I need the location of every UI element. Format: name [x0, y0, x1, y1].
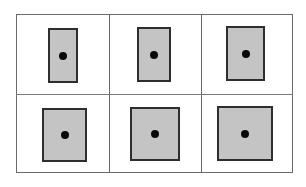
center-dot — [61, 131, 69, 139]
center-dot — [151, 130, 159, 138]
shape-r2-c2 — [130, 107, 180, 161]
center-dot — [59, 52, 67, 60]
shape-r2-c3 — [217, 106, 273, 161]
shape-r2-c1 — [42, 108, 87, 162]
shape-r1-c3 — [226, 26, 265, 81]
shape-r1-c2 — [137, 27, 171, 82]
center-dot — [150, 51, 158, 59]
shape-r1-c1 — [48, 28, 78, 83]
center-dot — [241, 130, 249, 138]
center-dot — [242, 50, 250, 58]
grid-divider-horizontal — [16, 94, 293, 95]
